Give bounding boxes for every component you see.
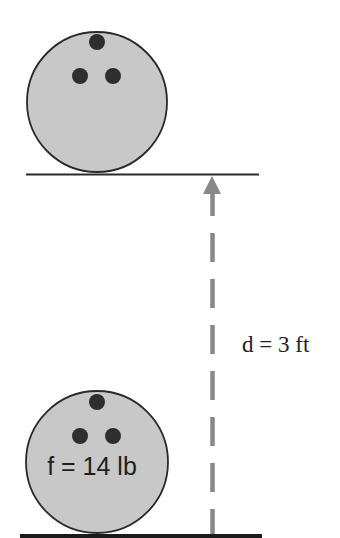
finger-hole-icon — [89, 34, 105, 50]
distance-label: d = 3 ft — [242, 332, 310, 357]
displacement-arrow — [203, 176, 221, 535]
bottom-bowling-ball: f = 14 lb — [26, 391, 168, 533]
work-diagram: d = 3 ft f = 14 lb — [0, 0, 340, 538]
ball-body — [27, 32, 167, 172]
finger-hole-icon — [72, 428, 88, 444]
top-bowling-ball — [27, 32, 167, 172]
finger-hole-icon — [105, 68, 121, 84]
finger-hole-icon — [105, 428, 121, 444]
force-label: f = 14 lb — [47, 452, 137, 480]
arrow-head-icon — [203, 176, 221, 194]
finger-hole-icon — [89, 394, 105, 410]
finger-hole-icon — [72, 68, 88, 84]
